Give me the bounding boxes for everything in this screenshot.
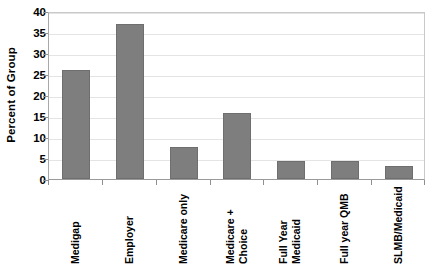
bar [223, 113, 251, 179]
bar [385, 166, 413, 179]
bar [331, 161, 359, 179]
x-axis-tick-mark [371, 180, 372, 185]
x-axis-tick-mark [263, 180, 264, 185]
bar [62, 70, 90, 179]
plot-area [48, 12, 425, 180]
bar [277, 161, 305, 179]
x-axis-tick-label-line: Medicare only [177, 194, 190, 264]
x-axis-tick-mark [210, 180, 211, 185]
x-axis-tick-mark [424, 180, 425, 185]
x-axis-tick-label-line: Choice [237, 209, 250, 264]
bar [170, 147, 198, 179]
x-axis-tick-mark [156, 180, 157, 185]
bar-chart: Percent of Group 0510152025303540 Mediga… [0, 0, 439, 267]
x-axis-tick-mark [102, 180, 103, 185]
x-axis-tick-label: Employer [102, 186, 156, 267]
x-axis-tick-label-line: Full Year [277, 219, 290, 264]
x-axis-tick-label-line: Full year QMB [338, 193, 351, 264]
x-axis-tick-labels: MedigapEmployerMedicare onlyMedicare +Ch… [48, 186, 425, 267]
x-axis-tick-label: Full year QMB [317, 186, 371, 267]
x-axis-tick-label-line: Employer [123, 216, 136, 264]
x-axis-tick-label: Medicare only [156, 186, 210, 267]
y-axis-title: Percent of Group [0, 0, 22, 190]
x-axis-tick-marks [48, 180, 425, 185]
x-axis-tick-label: Medicare +Choice [210, 186, 264, 267]
x-axis-tick-label: Full YearMedicaid [263, 186, 317, 267]
y-axis-title-label: Percent of Group [5, 47, 17, 143]
x-axis-tick-mark [48, 180, 49, 185]
x-axis-tick-label-line: Medicaid [290, 219, 303, 264]
x-axis-tick-mark [317, 180, 318, 185]
bars-layer [49, 13, 424, 179]
x-axis-tick-label: SLMB/Medicaid [371, 186, 425, 267]
x-axis-tick-label-line: SLMB/Medicaid [392, 186, 405, 264]
x-axis-tick-label-line: Medicare + [224, 209, 237, 264]
bar [116, 24, 144, 179]
x-axis-tick-label-line: Medigap [69, 221, 82, 264]
x-axis-tick-label: Medigap [48, 186, 102, 267]
